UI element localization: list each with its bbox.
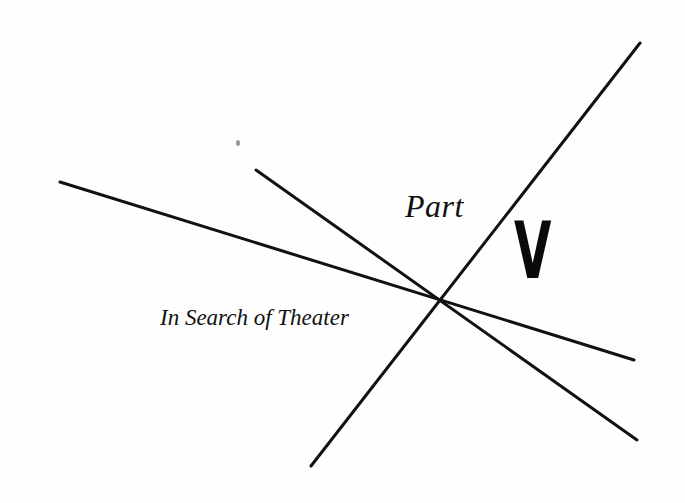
- crossing-lines-graphic: [0, 0, 685, 503]
- line-steep: [311, 43, 640, 466]
- part-title: In Search of Theater: [160, 305, 349, 331]
- part-label: Part: [405, 188, 464, 225]
- ink-speck: [236, 140, 240, 146]
- book-page: Part V In Search of Theater: [0, 0, 685, 503]
- part-number: V: [514, 212, 551, 290]
